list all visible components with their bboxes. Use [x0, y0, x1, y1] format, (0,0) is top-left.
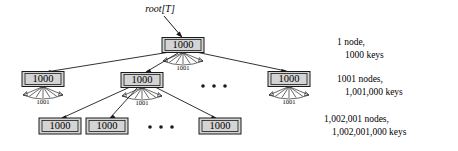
legend-level-0-keys: 1000 keys [337, 49, 384, 62]
edge-root-to-child-2 [146, 53, 178, 72]
root-pointer-label: root[T] [145, 3, 175, 14]
node-leaf-1-keys-label: 1000 [50, 120, 71, 131]
node-level1-right-children-label: 1001 [283, 98, 296, 105]
node-leaf-1[interactable]: 1000 [39, 118, 81, 134]
node-root[interactable]: 1000 1001 [162, 38, 204, 72]
node-leaf-2[interactable]: 1000 [86, 118, 128, 134]
legend-level-1-nodes: 1001 nodes, [337, 73, 403, 86]
node-level1-left-children-label: 1001 [37, 98, 50, 105]
legend-level-1-keys: 1,001,000 keys [337, 86, 403, 99]
ellipsis-level2 [148, 125, 174, 129]
edge-child2-to-leaf-4 [155, 87, 216, 118]
legend-level-0: 1 node, 1000 keys [337, 36, 384, 61]
legend-level-1: 1001 nodes, 1,001,000 keys [337, 73, 403, 98]
edge-child2-to-leaf-1 [62, 87, 130, 118]
root-pointer-arrow-head [176, 32, 182, 38]
edge-child2-to-leaf-2 [110, 87, 138, 118]
node-level1-right-keys-label: 1000 [279, 73, 300, 84]
node-level1-middle-children-label: 1001 [136, 99, 149, 106]
legend-level-2-keys: 1,002,001,000 keys [324, 126, 406, 139]
node-root-keys-label: 1000 [173, 39, 194, 50]
ellipsis-level1 [201, 84, 227, 88]
node-level1-middle-keys-label: 1000 [132, 74, 153, 85]
node-leaf-2-keys-label: 1000 [97, 120, 118, 131]
node-level1-right[interactable]: 1000 1001 [268, 72, 310, 106]
edge-root-to-child-3 [196, 52, 286, 71]
legend-level-2: 1,002,001 nodes, 1,002,001,000 keys [324, 113, 406, 138]
legend-level-0-nodes: 1 node, [337, 36, 384, 49]
node-root-children-label: 1001 [177, 64, 190, 71]
node-level1-left-keys-label: 1000 [33, 73, 54, 84]
node-level1-middle[interactable]: 1000 1001 [121, 73, 163, 107]
legend-level-2-nodes: 1,002,001 nodes, [324, 113, 406, 126]
node-leaf-4-keys-label: 1000 [210, 120, 231, 131]
figure-canvas: root[T] 1000 [0, 0, 458, 151]
node-leaf-4[interactable]: 1000 [199, 118, 241, 134]
node-level1-left[interactable]: 1000 1001 [22, 72, 64, 106]
